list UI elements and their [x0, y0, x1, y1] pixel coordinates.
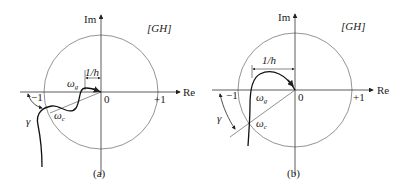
- im-label: Im: [84, 13, 97, 25]
- omega-g-label: ωg: [67, 77, 79, 91]
- dimension-label: 1/h: [262, 54, 277, 66]
- minus-one-label: −1: [31, 91, 43, 103]
- origin-label: 0: [298, 91, 304, 103]
- gamma-label: γ: [217, 112, 222, 124]
- plane-label: [GH]: [341, 20, 365, 32]
- plus-one-label: +1: [353, 91, 365, 103]
- nyquist-curve: [248, 72, 295, 146]
- nyquist-curve: [37, 88, 101, 167]
- omega-c-label: ωc: [54, 109, 66, 123]
- dimension-label: 1/h: [85, 66, 100, 78]
- re-label: Re: [377, 84, 389, 96]
- panel-a: Im [GH] Re 0 −1 +1 1/h ωg ωc γ (a): [20, 13, 195, 180]
- caption-a: (a): [93, 167, 106, 180]
- plane-label: [GH]: [147, 22, 171, 34]
- im-label: Im: [278, 11, 291, 23]
- plus-one-label: +1: [154, 93, 166, 105]
- origin-label: 0: [104, 93, 110, 105]
- minus-one-label: −1: [226, 89, 238, 101]
- re-label: Re: [183, 86, 195, 98]
- gamma-label: γ: [26, 115, 31, 127]
- nyquist-figure: Im [GH] Re 0 −1 +1 1/h ωg ωc γ (a) Im [G…: [0, 0, 403, 195]
- curve-arrow: [288, 80, 293, 86]
- caption-b: (b): [287, 167, 300, 180]
- omega-g-label: ωg: [256, 91, 268, 105]
- panel-b: Im [GH] Re 0 −1 +1 1/h ωg ωc γ (b): [212, 11, 389, 180]
- omega-c-label: ωc: [256, 117, 268, 131]
